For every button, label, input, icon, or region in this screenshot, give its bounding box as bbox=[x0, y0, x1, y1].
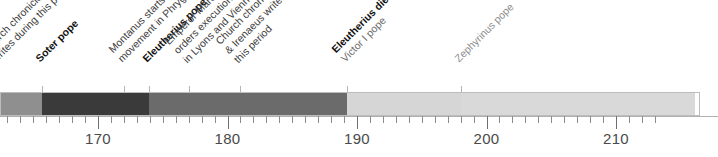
annotation-leader-line bbox=[149, 86, 150, 92]
axis-minor-tick bbox=[370, 116, 371, 123]
axis-minor-tick bbox=[642, 116, 643, 123]
axis-minor-tick bbox=[655, 116, 656, 123]
annotation-leader-line bbox=[347, 86, 348, 92]
axis-minor-tick bbox=[33, 116, 34, 123]
axis-major-tick bbox=[228, 116, 229, 129]
axis-minor-tick bbox=[279, 116, 280, 123]
axis-minor-tick bbox=[20, 116, 21, 123]
axis-minor-tick bbox=[396, 116, 397, 123]
axis-minor-tick bbox=[292, 116, 293, 123]
timeline-segment bbox=[347, 92, 461, 116]
axis-minor-tick bbox=[474, 116, 475, 123]
axis-minor-tick bbox=[266, 116, 267, 123]
annotation-leader-line bbox=[189, 86, 190, 92]
axis-minor-tick bbox=[564, 116, 565, 123]
axis-major-tick bbox=[487, 116, 488, 129]
axis-minor-tick bbox=[331, 116, 332, 123]
axis-tick-label: 180 bbox=[215, 130, 241, 147]
axis-minor-tick bbox=[603, 116, 604, 123]
axis-minor-tick bbox=[344, 116, 345, 123]
axis-minor-tick bbox=[409, 116, 410, 123]
annotation-leader-line bbox=[240, 86, 241, 92]
axis-minor-tick bbox=[124, 116, 125, 123]
axis-minor-tick bbox=[590, 116, 591, 123]
axis-minor-tick bbox=[629, 116, 630, 123]
axis-minor-tick bbox=[215, 116, 216, 123]
annotation-eleutherius-dies-victor: Eleutherius dies;Victor I pope bbox=[329, 0, 407, 65]
annotation-zephyrinus-pope: Zephyrinus pope bbox=[452, 1, 516, 65]
axis-minor-tick bbox=[189, 116, 190, 123]
axis-tick-label: 170 bbox=[85, 130, 111, 147]
annotation-leader-line bbox=[42, 86, 43, 92]
axis-minor-tick bbox=[85, 116, 86, 123]
annotation-line: Zephyrinus pope bbox=[452, 1, 516, 65]
axis-minor-tick bbox=[240, 116, 241, 123]
axis-tick-label: 190 bbox=[344, 130, 370, 147]
axis-minor-tick bbox=[253, 116, 254, 123]
timeline-segment bbox=[461, 92, 695, 116]
axis-minor-tick bbox=[137, 116, 138, 123]
timeline-segment bbox=[0, 92, 42, 116]
axis-tick-label: 210 bbox=[603, 130, 629, 147]
axis-minor-tick bbox=[305, 116, 306, 123]
axis-major-tick bbox=[98, 116, 99, 129]
axis-minor-tick bbox=[499, 116, 500, 123]
axis-minor-tick bbox=[422, 116, 423, 123]
axis-major-tick bbox=[616, 116, 617, 129]
axis-major-tick bbox=[357, 116, 358, 129]
axis-minor-tick bbox=[318, 116, 319, 123]
axis-minor-tick bbox=[7, 116, 8, 123]
axis-line bbox=[0, 116, 718, 117]
timeline-segment bbox=[42, 92, 148, 116]
axis-minor-tick bbox=[525, 116, 526, 123]
axis-minor-tick bbox=[435, 116, 436, 123]
axis-minor-tick bbox=[59, 116, 60, 123]
annotation-leader-line bbox=[124, 86, 125, 92]
axis-minor-tick bbox=[448, 116, 449, 123]
timeline-chart: 170180190200210 Church chronicler Hegesi… bbox=[0, 0, 718, 157]
axis-minor-tick bbox=[72, 116, 73, 123]
axis-minor-tick bbox=[461, 116, 462, 123]
axis-minor-tick bbox=[551, 116, 552, 123]
axis-minor-tick bbox=[202, 116, 203, 123]
axis-minor-tick bbox=[538, 116, 539, 123]
axis-minor-tick bbox=[577, 116, 578, 123]
annotation-soter-pope: Soter pope bbox=[33, 17, 81, 65]
axis-minor-tick bbox=[512, 116, 513, 123]
axis-minor-tick bbox=[150, 116, 151, 123]
annotation-leader-line bbox=[461, 86, 462, 92]
annotation-line: Soter pope bbox=[33, 17, 81, 65]
axis-tick-label: 200 bbox=[474, 130, 500, 147]
axis-minor-tick bbox=[176, 116, 177, 123]
axis-minor-tick bbox=[111, 116, 112, 123]
axis-minor-tick bbox=[46, 116, 47, 123]
axis-minor-tick bbox=[163, 116, 164, 123]
timeline-bar bbox=[0, 92, 700, 116]
timeline-segment bbox=[149, 92, 347, 116]
axis-minor-tick bbox=[383, 116, 384, 123]
